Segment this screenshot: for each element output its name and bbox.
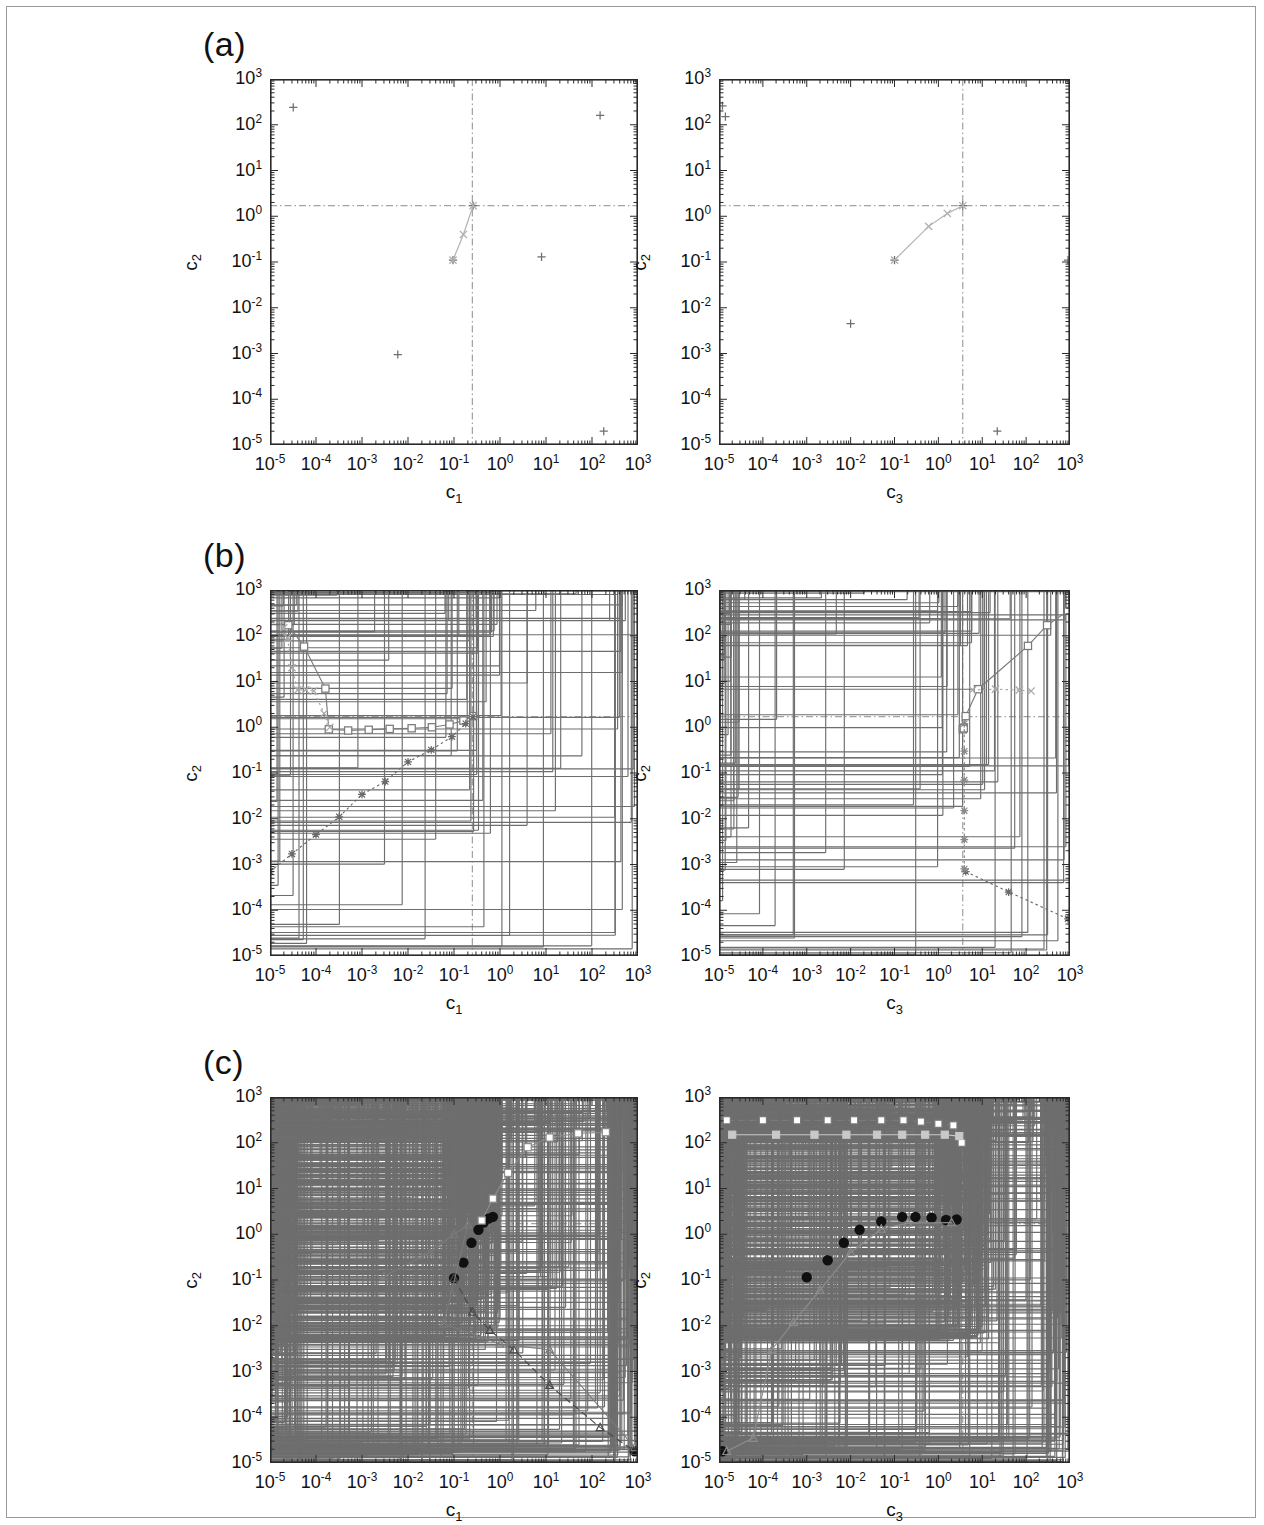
y-tick-label: 10-2 <box>659 295 711 318</box>
plot-canvas-a-right <box>719 79 1070 445</box>
y-tick-label: 102 <box>659 112 711 135</box>
y-tick-label: 10-1 <box>210 760 262 783</box>
scatter-cloud <box>271 590 638 949</box>
x-axis-title: c1 <box>414 992 494 1017</box>
x-axis-title: c3 <box>855 992 935 1017</box>
y-tick-label: 10-1 <box>659 1267 711 1290</box>
y-tick-label: 100 <box>659 714 711 737</box>
x-tick-label: 103 <box>1043 452 1097 475</box>
y-tick-label: 102 <box>210 1130 262 1153</box>
plot-b-right <box>719 590 1070 956</box>
y-tick-label: 10-3 <box>659 852 711 875</box>
plot-canvas-c-right <box>719 1097 1070 1463</box>
series-descending-dotted <box>962 868 1070 923</box>
y-tick-label: 100 <box>210 203 262 226</box>
y-axis-title: c2 <box>180 222 205 302</box>
y-tick-label: 103 <box>659 1084 711 1107</box>
y-tick-label: 10-2 <box>210 1313 262 1336</box>
series-vertical-spine <box>960 720 968 873</box>
y-tick-label: 10-3 <box>210 852 262 875</box>
x-axis-title: c3 <box>855 1499 935 1524</box>
y-tick-label: 10-2 <box>659 1313 711 1336</box>
y-tick-label: 10-1 <box>210 249 262 272</box>
y-tick-label: 10-3 <box>659 1359 711 1382</box>
y-tick-label: 103 <box>659 577 711 600</box>
y-tick-label: 10-2 <box>659 806 711 829</box>
y-axis-title: c2 <box>180 733 205 813</box>
y-axis-title: c2 <box>180 1240 205 1320</box>
y-tick-label: 101 <box>210 669 262 692</box>
scatter-cloud <box>719 1097 1070 1463</box>
y-tick-label: 101 <box>210 158 262 181</box>
scatter-cloud <box>719 590 1070 954</box>
x-tick-label: 103 <box>611 1470 665 1493</box>
plot-b-left <box>270 590 638 956</box>
y-tick-label: 101 <box>659 1176 711 1199</box>
y-tick-label: 10-4 <box>210 897 262 920</box>
y-tick-label: 103 <box>210 577 262 600</box>
y-tick-label: 103 <box>210 66 262 89</box>
y-tick-label: 10-1 <box>659 249 711 272</box>
y-axis-title: c2 <box>629 733 654 813</box>
y-tick-label: 100 <box>210 714 262 737</box>
y-tick-label: 10-1 <box>210 1267 262 1290</box>
y-tick-label: 10-1 <box>659 760 711 783</box>
plot-c-left <box>270 1097 638 1463</box>
series-trace <box>891 202 966 264</box>
x-tick-label: 103 <box>1043 963 1097 986</box>
x-tick-label: 103 <box>611 452 665 475</box>
y-tick-label: 101 <box>210 1176 262 1199</box>
x-axis-title: c3 <box>855 481 935 506</box>
y-tick-label: 10-4 <box>210 386 262 409</box>
y-tick-label: 10-3 <box>210 341 262 364</box>
axis-frame <box>270 590 638 956</box>
y-tick-label: 103 <box>659 66 711 89</box>
y-tick-label: 102 <box>210 112 262 135</box>
y-tick-label: 10-2 <box>210 295 262 318</box>
panel-label-b: (b) <box>203 536 246 575</box>
y-tick-label: 10-4 <box>210 1404 262 1427</box>
series-samples <box>719 102 1070 436</box>
y-tick-label: 102 <box>210 623 262 646</box>
plot-canvas-a-left <box>270 79 638 445</box>
y-tick-label: 100 <box>659 203 711 226</box>
y-tick-label: 103 <box>210 1084 262 1107</box>
x-tick-label: 103 <box>611 963 665 986</box>
panel-label-a: (a) <box>203 25 246 64</box>
y-tick-label: 10-4 <box>659 897 711 920</box>
y-tick-label: 10-4 <box>659 1404 711 1427</box>
y-tick-label: 10-3 <box>659 341 711 364</box>
series-samples <box>270 103 608 435</box>
plot-c-right <box>719 1097 1070 1463</box>
figure-page: (a) (b) (c) 10310210110010-110-210-310-4… <box>6 6 1256 1518</box>
y-tick-label: 102 <box>659 623 711 646</box>
y-tick-label: 100 <box>659 1221 711 1244</box>
x-tick-label: 103 <box>1043 1470 1097 1493</box>
y-axis-title: c2 <box>629 222 654 302</box>
y-axis-title: c2 <box>629 1240 654 1320</box>
plot-a-right <box>719 79 1070 445</box>
plot-a-left <box>270 79 638 445</box>
panel-label-c: (c) <box>203 1043 244 1082</box>
y-tick-label: 10-3 <box>210 1359 262 1382</box>
x-axis-title: c1 <box>414 481 494 506</box>
y-tick-label: 10-2 <box>210 806 262 829</box>
y-tick-label: 101 <box>659 158 711 181</box>
y-tick-label: 102 <box>659 1130 711 1153</box>
y-tick-label: 101 <box>659 669 711 692</box>
plot-canvas-b-right <box>719 590 1070 956</box>
plot-canvas-c-left <box>270 1097 638 1463</box>
y-tick-label: 10-4 <box>659 386 711 409</box>
y-tick-label: 100 <box>210 1221 262 1244</box>
x-axis-title: c1 <box>414 1499 494 1524</box>
reference-lines <box>270 590 638 956</box>
plot-canvas-b-left <box>270 590 638 956</box>
